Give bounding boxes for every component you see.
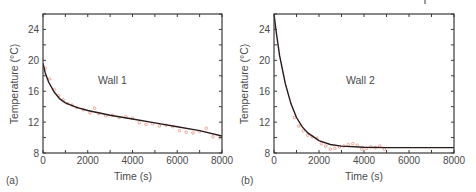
x-tick-label: 6000: [166, 155, 189, 166]
data-point: [158, 125, 161, 128]
data-point: [48, 78, 51, 81]
fit-line: [43, 63, 222, 136]
data-point: [361, 148, 364, 151]
y-tick-label: 24: [28, 24, 40, 35]
data-point: [293, 116, 296, 119]
data-point: [89, 112, 92, 115]
data-point: [192, 132, 195, 135]
data-point: [329, 148, 332, 151]
data-point: [320, 142, 323, 145]
panel-b-ylabel: Temperature (°C): [238, 44, 250, 125]
panel-a-plot: 02000400060008000812162024: [28, 14, 234, 166]
data-point: [145, 123, 148, 126]
x-tick-label: 0: [40, 155, 46, 166]
x-tick-label: 4000: [353, 155, 376, 166]
data-point: [205, 127, 208, 130]
x-tick-label: 6000: [398, 155, 421, 166]
x-tick-label: 4000: [121, 155, 144, 166]
panel-a-annotation: Wall 1: [98, 74, 127, 86]
measured-points: [44, 67, 221, 139]
data-point: [138, 122, 141, 125]
y-tick-label: 8: [33, 148, 39, 159]
data-point: [212, 136, 215, 139]
y-tick-label: 20: [28, 55, 40, 66]
panel-b-xlabel: Time (s): [345, 170, 383, 182]
x-tick-label: 8000: [443, 155, 466, 166]
panel-b: 02000400060008000812162024 Wall 2 Time (…: [238, 14, 466, 186]
panel-b-annotation: Wall 2: [346, 74, 375, 86]
data-point: [93, 107, 96, 110]
y-tick-label: 16: [259, 86, 271, 97]
y-tick-label: 24: [259, 24, 271, 35]
data-point: [334, 147, 337, 150]
data-point: [347, 143, 350, 146]
y-tick-label: 16: [28, 86, 40, 97]
plot-frame: [43, 14, 222, 153]
panel-b-plot: 02000400060008000812162024: [259, 14, 466, 166]
x-tick-label: 2000: [308, 155, 331, 166]
x-tick-label: 0: [271, 155, 277, 166]
data-point: [178, 129, 181, 132]
panel-a-label: (a): [6, 175, 18, 186]
x-tick-label: 2000: [77, 155, 100, 166]
data-point: [185, 131, 188, 134]
data-point: [298, 125, 301, 128]
panel-b-label: (b): [241, 175, 253, 186]
panel-a: 02000400060008000812162024 Wall 1 Time (…: [6, 14, 234, 186]
y-tick-label: 20: [259, 55, 271, 66]
panel-a-ylabel: Temperature (°C): [8, 44, 20, 125]
x-tick-label: 8000: [211, 155, 234, 166]
data-point: [325, 145, 328, 148]
y-tick-label: 8: [264, 148, 270, 159]
figure: 02000400060008000812162024 Wall 1 Time (…: [0, 0, 476, 192]
data-point: [352, 142, 355, 145]
panel-a-xlabel: Time (s): [114, 170, 152, 182]
y-tick-label: 12: [259, 117, 271, 128]
y-tick-label: 12: [28, 117, 40, 128]
